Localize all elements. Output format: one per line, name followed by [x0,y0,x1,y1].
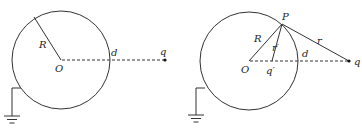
ground-icon [188,88,205,122]
point-charge-dot [163,58,166,61]
label-O: O [55,63,63,74]
label-d: d [111,47,117,58]
r-line [282,24,349,61]
label-P: P [281,11,289,22]
label-q: q [160,46,166,57]
ground-icon [4,88,21,123]
label-r-prime: r′ [272,42,280,53]
label-q-prime: q′ [266,65,275,76]
point-charge-dot [347,59,350,62]
left-diagram: R O d q [4,11,167,123]
label-d: d [302,48,308,59]
image-charge-figure: R O d q P R r′ r d O q′ q [0,0,362,133]
label-q: q [354,56,360,67]
label-R: R [253,33,262,44]
right-diagram: P R r′ r d O q′ q [188,11,360,122]
label-R: R [38,39,47,50]
label-O: O [241,64,249,75]
label-r: r [317,35,323,46]
